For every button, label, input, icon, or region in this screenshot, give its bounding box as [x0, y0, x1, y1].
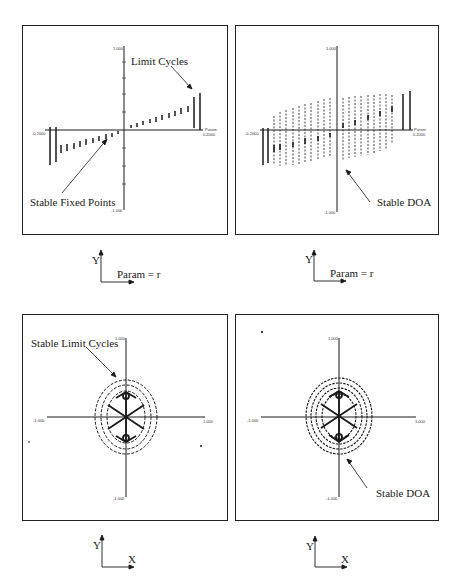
axis-label-y: Y — [93, 539, 101, 551]
axis-label-x: X — [341, 553, 349, 565]
axis-label-x: X — [128, 553, 136, 565]
axis-indicators-bottom — [0, 0, 460, 587]
axis-label-y: Y — [306, 540, 314, 552]
